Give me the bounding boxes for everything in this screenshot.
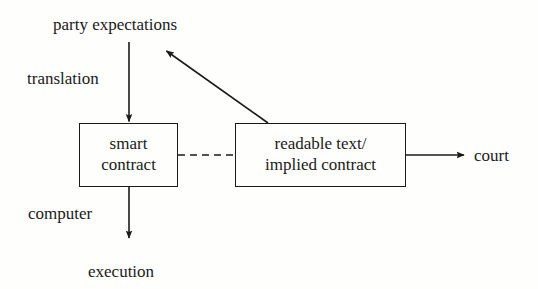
label-party-expectations: party expectations (53, 16, 177, 33)
node-readable-text-line1: readable text/ (274, 134, 366, 155)
node-smart-contract-line2: contract (101, 155, 156, 176)
label-execution: execution (88, 263, 154, 280)
node-readable-text-line2: implied contract (265, 155, 376, 176)
node-smart-contract-line1: smart (110, 134, 148, 155)
node-readable-text-implied-contract[interactable]: readable text/ implied contract (235, 123, 406, 187)
label-court: court (474, 147, 509, 164)
edge-readable-text-to-party-expectations (167, 51, 269, 123)
diagram-canvas: smart contract readable text/ implied co… (0, 0, 538, 289)
label-computer: computer (28, 205, 92, 222)
node-smart-contract[interactable]: smart contract (79, 123, 178, 187)
label-translation: translation (27, 70, 99, 87)
